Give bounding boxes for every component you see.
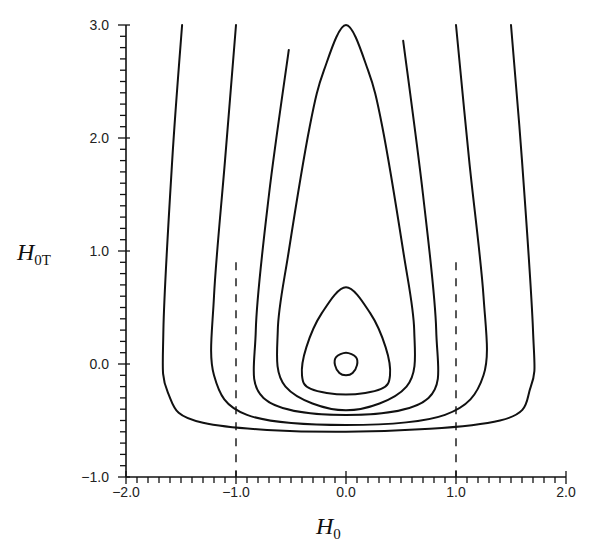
x-axis-title: H0	[315, 513, 341, 542]
x-axis-title-main: H	[315, 513, 335, 539]
plot-contours	[163, 25, 535, 432]
y-axis-title-sub: 0T	[34, 252, 51, 268]
closed-contour-egg	[302, 287, 390, 394]
y-tick-label: 1.0	[90, 243, 110, 259]
open-contour-inner	[254, 41, 439, 415]
y-tick-label: 2.0	[90, 130, 110, 146]
x-tick-label: −1.0	[222, 484, 250, 500]
reference-lines	[236, 262, 456, 477]
x-axis-title-sub: 0	[333, 526, 341, 542]
y-tick-label: −1.0	[81, 469, 109, 485]
y-tick-label: 3.0	[90, 17, 110, 33]
contour-chart: −1.0 0.0 1.0 2.0 3.0 −2.0 −1.0 0.0 1.0 2…	[0, 0, 591, 556]
svg-text:H0T: H0T	[16, 239, 51, 268]
y-axis-title-main: H	[16, 239, 36, 265]
closed-contour-small	[335, 353, 358, 376]
open-contour-middle	[211, 25, 487, 425]
x-tick-label: −2.0	[112, 484, 140, 500]
x-tick-label: 0.0	[336, 484, 356, 500]
svg-text:H0: H0	[315, 513, 341, 542]
x-tick-label: 2.0	[556, 484, 576, 500]
y-tick-label: 0.0	[90, 356, 110, 372]
x-tick-labels: −2.0 −1.0 0.0 1.0 2.0	[112, 484, 576, 500]
y-tick-labels: −1.0 0.0 1.0 2.0 3.0	[81, 17, 109, 485]
y-axis-title: H0T	[16, 239, 51, 268]
x-tick-label: 1.0	[446, 484, 466, 500]
